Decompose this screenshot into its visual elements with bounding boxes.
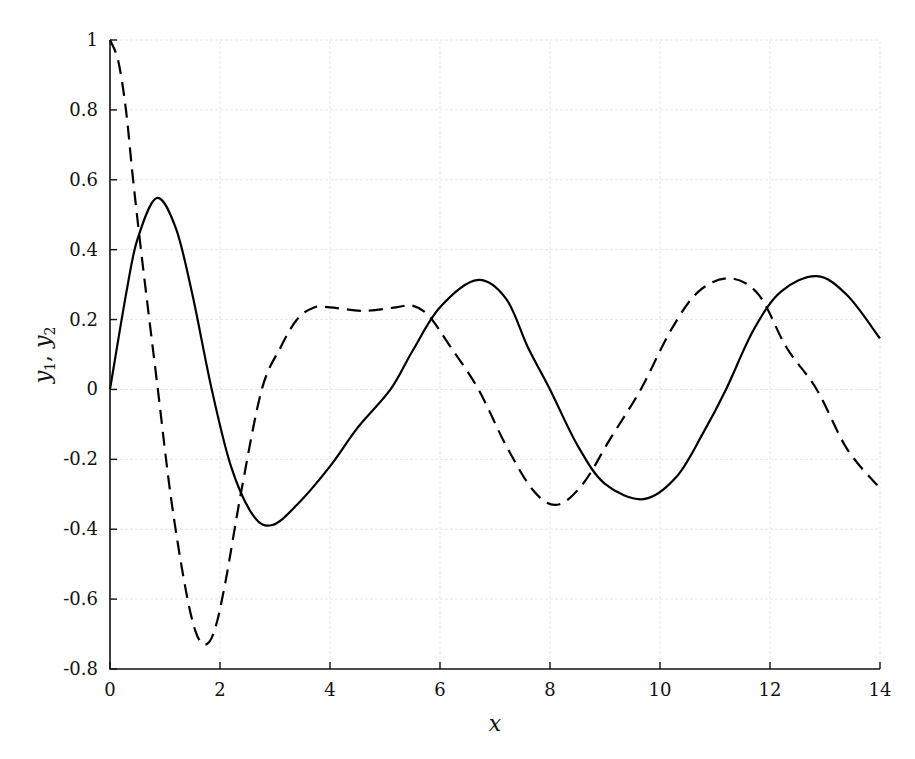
y-axis-label: y1, y2: [30, 327, 58, 385]
series-group: [110, 40, 880, 645]
x-tick-label: 6: [434, 679, 445, 700]
series-y2-line: [110, 40, 880, 645]
svg-text:y1, y2: y1, y2: [30, 327, 58, 385]
x-tick-label: 10: [649, 679, 672, 700]
x-axis-label: x: [489, 711, 502, 736]
y-label-sub-2: 2: [42, 327, 58, 336]
y-tick-label: 0.4: [69, 239, 98, 260]
y-tick-label: 1: [87, 29, 98, 50]
y-label-y1: y: [30, 370, 55, 384]
line-chart: 0246810121410.80.60.40.20-0.2-0.4-0.6-0.…: [0, 0, 915, 759]
x-tick-label: 14: [869, 679, 892, 700]
x-tick-label: 12: [759, 679, 782, 700]
y-tick-label: -0.6: [63, 588, 98, 609]
x-tick-label: 0: [104, 679, 115, 700]
axis-lines: [110, 40, 880, 669]
y-tick-label: -0.8: [63, 658, 98, 679]
series-y1-line: [110, 198, 880, 526]
y-tick-label: -0.4: [63, 518, 98, 539]
x-tick-label: 4: [324, 679, 335, 700]
y-tick-label: -0.2: [63, 448, 98, 469]
y-tick-label: 0.2: [69, 309, 98, 330]
y-tick-label: 0.6: [69, 169, 98, 190]
y-tick-label: 0: [87, 378, 98, 399]
grid-lines: [110, 40, 880, 669]
y-label-sub-1: 1: [42, 362, 58, 371]
x-tick-label: 2: [214, 679, 225, 700]
axes: [110, 40, 880, 669]
y-label-sep: ,: [30, 348, 55, 362]
y-label-y2: y: [30, 335, 55, 349]
x-tick-label: 8: [544, 679, 555, 700]
y-tick-label: 0.8: [69, 99, 98, 120]
